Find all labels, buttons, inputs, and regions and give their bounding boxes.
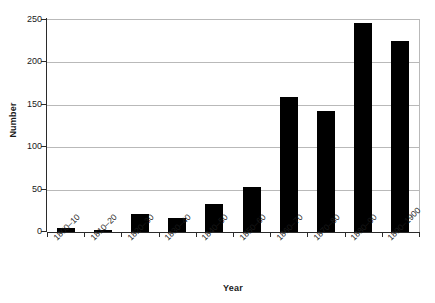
bar-chart: Number 050100150200250 1800–101810–20182… xyxy=(0,0,435,303)
y-tick-label: 200 xyxy=(27,57,42,66)
x-tick-mark xyxy=(159,232,160,237)
x-tick-mark xyxy=(270,232,271,237)
y-axis-tick-labels: 050100150200250 xyxy=(16,14,42,231)
x-tick-mark xyxy=(307,232,308,237)
y-tick-mark xyxy=(41,104,47,105)
bar xyxy=(280,97,298,232)
y-tick-mark xyxy=(41,189,47,190)
x-tick-mark xyxy=(84,232,85,237)
y-tick-label: 150 xyxy=(27,99,42,108)
y-tick-mark xyxy=(41,61,47,62)
y-tick-label: 100 xyxy=(27,142,42,151)
bars-layer xyxy=(47,20,419,232)
x-tick-mark xyxy=(419,232,420,237)
y-tick-mark xyxy=(41,19,47,20)
y-tick-mark xyxy=(41,146,47,147)
x-axis-title: Year xyxy=(47,283,419,293)
y-tick-label: 250 xyxy=(27,15,42,24)
x-tick-mark xyxy=(345,232,346,237)
x-axis-tick-labels: 1800–101810–201820–301830–401840–501850–… xyxy=(0,236,435,281)
plot-area xyxy=(47,19,420,232)
x-tick-mark xyxy=(121,232,122,237)
bar xyxy=(354,23,372,232)
bar xyxy=(391,41,409,232)
x-tick-mark xyxy=(233,232,234,237)
x-tick-mark xyxy=(196,232,197,237)
x-tick-mark xyxy=(382,232,383,237)
x-tick-mark xyxy=(47,232,48,237)
